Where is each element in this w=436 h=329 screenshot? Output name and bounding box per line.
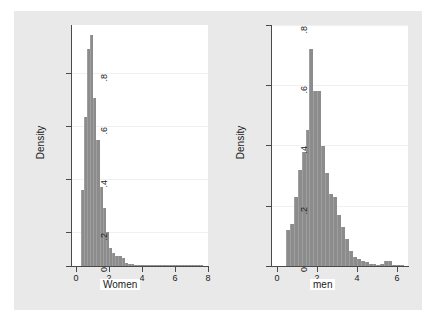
x-tick — [317, 267, 318, 272]
y-tick — [266, 266, 271, 267]
y-axis-line-women — [71, 25, 72, 267]
x-tick — [208, 267, 209, 272]
x-axis-line-women — [71, 266, 209, 267]
y-tick-label: .8 — [299, 26, 309, 66]
y-tick-label: .8 — [99, 74, 109, 114]
x-tick-label: 8 — [198, 273, 218, 283]
y-tick-label: .4 — [99, 180, 109, 220]
x-tick-label: 0 — [267, 273, 287, 283]
y-tick — [266, 206, 271, 207]
y-tick — [266, 25, 271, 26]
panel-women: .8 .6 .4 .2 0 Density 0 2 4 6 8 Women — [14, 11, 218, 310]
x-tick-label: 0 — [66, 273, 86, 283]
x-tick — [277, 267, 278, 272]
x-tick — [357, 267, 358, 272]
x-axis-title-men: men — [310, 279, 335, 290]
y-tick — [66, 232, 71, 233]
plot-area-women — [72, 25, 208, 266]
figure-canvas: .8 .6 .4 .2 0 Density 0 2 4 6 8 Women — [14, 11, 422, 310]
x-axis-title-women: Women — [100, 279, 140, 290]
y-tick — [66, 73, 71, 74]
x-axis-line-men — [271, 266, 409, 267]
y-axis-title-men: Density — [235, 103, 246, 183]
y-tick-label: .2 — [299, 207, 309, 247]
y-axis-line-men — [271, 25, 272, 267]
y-tick-label: .4 — [299, 146, 309, 186]
x-tick — [76, 267, 77, 272]
x-tick — [175, 267, 176, 272]
y-tick — [66, 126, 71, 127]
x-tick — [109, 267, 110, 272]
x-tick — [397, 267, 398, 272]
x-tick-label: 6 — [387, 273, 407, 283]
histogram-bars-women — [72, 25, 208, 266]
panel-men: .8 .6 .4 .2 0 Density 0 2 4 6 men — [218, 11, 422, 310]
y-axis-title-women: Density — [35, 103, 46, 183]
x-tick — [142, 267, 143, 272]
x-tick-label: 6 — [165, 273, 185, 283]
y-tick — [66, 179, 71, 180]
y-tick-label: .6 — [299, 86, 309, 126]
y-tick — [266, 85, 271, 86]
x-tick-label: 4 — [347, 273, 367, 283]
y-tick-label: .6 — [99, 127, 109, 167]
histogram-bars-men — [272, 25, 408, 266]
y-tick — [266, 145, 271, 146]
y-tick — [66, 266, 71, 267]
plot-area-men — [272, 25, 408, 266]
